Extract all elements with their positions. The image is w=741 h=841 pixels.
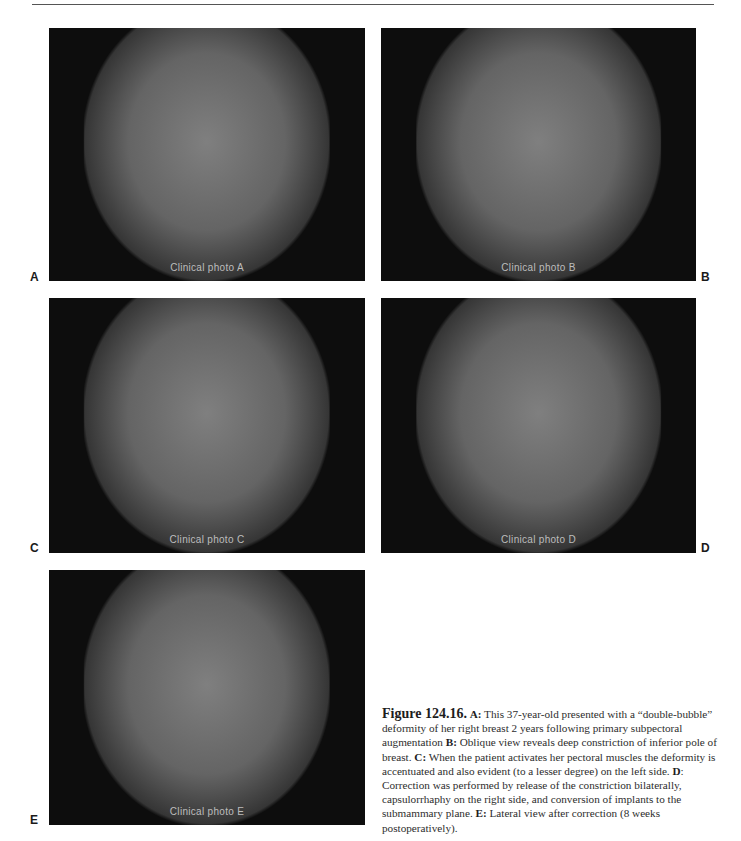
panel-label-c: C	[30, 541, 39, 555]
photo-placeholder	[416, 298, 662, 553]
photo-panel-d: Clinical photo D	[381, 298, 696, 553]
header-rule	[32, 4, 714, 5]
photo-note: Clinical photo E	[49, 806, 365, 817]
photo-panel-b: Clinical photo B	[381, 28, 696, 281]
panel-label-e: E	[30, 813, 38, 827]
photo-note: Clinical photo A	[49, 262, 365, 273]
photo-placeholder	[416, 28, 662, 281]
photo-placeholder	[84, 28, 330, 281]
caption-label-e: E:	[476, 807, 487, 819]
caption-label-a: A:	[470, 708, 482, 720]
photo-placeholder	[84, 298, 330, 553]
panel-label-d: D	[701, 541, 710, 555]
panel-label-b: B	[701, 270, 710, 284]
caption-label-c: C:	[414, 751, 426, 763]
photo-panel-c: Clinical photo C	[49, 298, 365, 553]
caption-label-d: D	[672, 765, 680, 777]
photo-note: Clinical photo B	[381, 262, 696, 273]
photo-note: Clinical photo C	[49, 534, 365, 545]
photo-panel-e: Clinical photo E	[49, 570, 365, 825]
photo-note: Clinical photo D	[381, 534, 696, 545]
figure-number: Figure 124.16.	[382, 706, 467, 721]
panel-label-a: A	[30, 270, 39, 284]
photo-placeholder	[84, 570, 330, 825]
caption-text-c: When the patient activates her pectoral …	[382, 751, 715, 777]
caption-label-b: B:	[446, 736, 457, 748]
figure-caption: Figure 124.16. A: This 37-year-old prese…	[382, 707, 722, 835]
photo-panel-a: Clinical photo A	[49, 28, 365, 281]
